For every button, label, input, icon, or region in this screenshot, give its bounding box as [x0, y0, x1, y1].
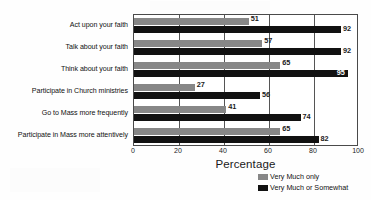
bar-value-label: 27 — [197, 81, 205, 88]
x-tick-label: 60 — [264, 147, 272, 154]
bar — [134, 84, 195, 91]
bar-value-label: 95 — [337, 69, 345, 76]
plot-area: 519257926595275641746582 — [133, 14, 358, 146]
bar-value-label: 82 — [321, 135, 329, 142]
bar-group: 2756 — [134, 81, 357, 103]
bar-value-label: 92 — [343, 47, 351, 54]
bar — [134, 26, 341, 33]
x-tick-label: 40 — [219, 147, 227, 154]
x-tick-label: 80 — [309, 147, 317, 154]
category-label: Participate in Church ministries — [0, 87, 128, 95]
bar — [134, 106, 226, 113]
bar-value-label: 65 — [282, 125, 290, 132]
category-label: Participate in Mass more attentively — [0, 131, 128, 139]
scan-artifact — [150, 1, 270, 10]
category-label: Talk about your faith — [0, 43, 128, 51]
bar-value-label: 56 — [262, 91, 270, 98]
category-axis-labels: Act upon your faithTalk about your faith… — [0, 14, 131, 146]
category-label: Think about your faith — [0, 65, 128, 73]
bar-group: 6582 — [134, 125, 357, 147]
legend-swatch — [258, 185, 268, 191]
bar-group: 5792 — [134, 37, 357, 59]
bar-value-label: 92 — [343, 25, 351, 32]
horizontal-bar-chart: Act upon your faithTalk about your faith… — [0, 0, 371, 200]
bar-value-label: 65 — [282, 59, 290, 66]
bar-group: 6595 — [134, 59, 357, 81]
legend-label: Very Much only — [270, 173, 319, 181]
chart-legend: Very Much onlyVery Much or Somewhat — [258, 172, 371, 194]
bar-group: 4174 — [134, 103, 357, 125]
scan-artifact — [10, 168, 100, 192]
bar-value-label: 51 — [251, 15, 259, 22]
legend-label: Very Much or Somewhat — [270, 184, 348, 192]
bar — [134, 128, 280, 135]
bar-value-label: 74 — [303, 113, 311, 120]
x-tick-label: 0 — [131, 147, 135, 154]
legend-item: Very Much only — [258, 172, 371, 182]
bar — [134, 48, 341, 55]
bar — [134, 136, 319, 143]
legend-item: Very Much or Somewhat — [258, 183, 371, 193]
bar — [134, 114, 301, 121]
category-label: Go to Mass more frequently — [0, 109, 128, 117]
x-axis-title: Percentage — [133, 158, 358, 170]
category-label: Act upon your faith — [0, 21, 128, 29]
bar-value-label: 41 — [228, 103, 236, 110]
bar — [134, 18, 249, 25]
bar — [134, 92, 260, 99]
bar — [134, 62, 280, 69]
legend-swatch — [258, 174, 268, 180]
bar — [134, 40, 262, 47]
x-tick-label: 20 — [174, 147, 182, 154]
bar-value-label: 57 — [264, 37, 272, 44]
bar — [134, 70, 348, 77]
bar-group: 5192 — [134, 15, 357, 37]
x-tick-label: 100 — [352, 147, 364, 154]
